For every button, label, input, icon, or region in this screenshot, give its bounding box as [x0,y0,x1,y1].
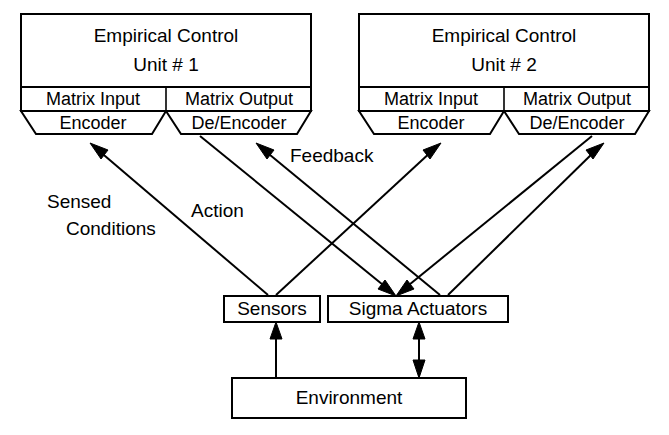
arrowhead-actuators-from-environment [413,322,425,339]
unit-2-matrix-input-label: Matrix Input [384,89,478,109]
unit-2-deencoder-label: De/Encoder [529,113,624,133]
unit-2-header-line2: Unit # 2 [471,54,536,75]
label-action: Action [191,200,244,221]
edge-unit2-to-actuators [396,136,592,296]
unit-1-matrix-input-label: Matrix Input [46,89,140,109]
unit-2-header-line1: Empirical Control [432,25,577,46]
label-sensed-conditions-line1: Sensed [47,191,111,212]
unit-1-matrix-output-label: Matrix Output [185,89,293,109]
unit-2-encoder-label: Encoder [397,113,464,133]
edge-environment-to-sensors [270,322,282,378]
label-feedback: Feedback [290,145,374,166]
sensors-box-group[interactable]: Sensors [224,296,320,322]
sigma-actuators-box-group[interactable]: Sigma Actuators [328,296,508,322]
unit-1-deencoder-label: De/Encoder [191,113,286,133]
edge-actuators-to-unit2-deencoder [448,143,604,295]
unit-1-encoder-label: Encoder [59,113,126,133]
unit-1-header-line1: Empirical Control [94,25,239,46]
arrowhead-environment-from-actuators [413,360,425,378]
arrowhead-sensors-from-environment [270,322,282,339]
sigma-actuators-label: Sigma Actuators [349,298,487,319]
empirical-control-unit-1[interactable]: Empirical Control Unit # 1 Matrix Input … [21,14,311,134]
environment-box-group[interactable]: Environment [232,378,466,418]
edge-environment-actuators-bidirectional [413,322,425,378]
unit-2-matrix-output-label: Matrix Output [523,89,631,109]
empirical-control-unit-2[interactable]: Empirical Control Unit # 2 Matrix Input … [359,14,649,134]
diagram-canvas: Empirical Control Unit # 1 Matrix Input … [0,0,669,435]
environment-label: Environment [296,387,403,408]
unit-1-header-line2: Unit # 1 [133,54,198,75]
control-architecture-diagram: Empirical Control Unit # 1 Matrix Input … [0,0,669,435]
label-sensed-conditions-line2: Conditions [66,218,156,239]
sensors-label: Sensors [237,298,307,319]
